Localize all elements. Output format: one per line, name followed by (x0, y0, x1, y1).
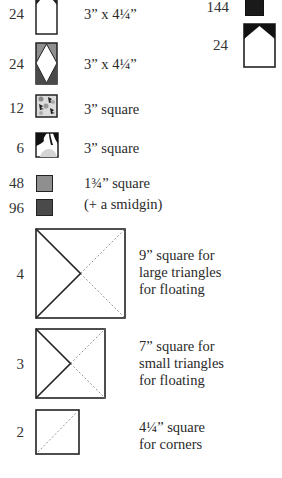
quantity-label: 6 (2, 140, 24, 156)
description-line: small triangles (139, 355, 224, 372)
large-triangle-square-icon (35, 228, 127, 320)
cut-size-label: 3” square (84, 140, 139, 157)
quantity-label: 12 (2, 100, 24, 116)
corner-square-icon (35, 409, 81, 456)
dark-gray-square-icon (36, 199, 53, 216)
quantity-label: 4 (2, 266, 24, 282)
cut-size-description: 4¼” square for corners (139, 419, 205, 453)
quantity-label: 96 (2, 200, 24, 216)
medium-gray-square-icon (36, 175, 53, 192)
quantity-label: 24 (2, 56, 24, 72)
black-square-icon (245, 0, 264, 16)
cut-size-label: 3” x 4¼” (84, 56, 137, 73)
description-line: for corners (139, 436, 205, 453)
quantity-label: 144 (202, 0, 229, 15)
quantity-label: 2 (2, 424, 24, 440)
description-line: 7” square for (139, 338, 224, 355)
cut-size-label: 3” square (84, 101, 139, 118)
diamond-block-icon (35, 42, 58, 85)
description-line: for floating (139, 372, 224, 389)
print-fabric-square-icon (35, 94, 58, 118)
print-fabric-square-2-icon (35, 132, 59, 158)
cut-size-description: 7” square for small triangles for floati… (139, 338, 224, 389)
cut-size-label: 1¾” square (84, 175, 150, 192)
black-house-block-icon (243, 23, 276, 68)
quantity-label: 48 (2, 175, 24, 191)
cut-size-label: 3” x 4¼” (84, 6, 137, 23)
description-line: 4¼” square (139, 419, 205, 436)
description-line: large triangles (139, 264, 221, 281)
quantity-label: 24 (206, 37, 228, 53)
small-triangle-square-icon (35, 328, 107, 400)
quantity-label: 3 (2, 356, 24, 372)
description-line: for floating (139, 281, 221, 298)
quantity-label: 24 (2, 6, 24, 22)
cut-size-note: (+ a smidgin) (84, 196, 162, 213)
cut-size-description: 9” square for large triangles for floati… (139, 247, 221, 298)
description-line: 9” square for (139, 247, 221, 264)
house-block-icon (35, 0, 58, 35)
